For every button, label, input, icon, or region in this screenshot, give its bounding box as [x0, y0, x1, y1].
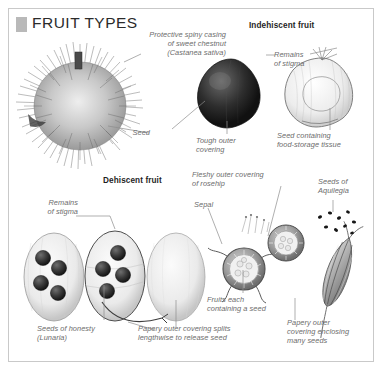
label-protective-spiny-casing: Protective spiny casing of sweet chestnu… [118, 30, 226, 58]
label-papery-outer-covering-enclosing: Papery outer covering enclosing many see… [287, 318, 359, 346]
fruit-types-plate: FRUIT TYPES [0, 0, 383, 371]
heading-dehiscent-fruit: Dehiscent fruit [103, 176, 162, 185]
label-seeds-of-honesty: Seeds of honesty (Lunaria) [37, 324, 111, 342]
label-remains-of-stigma-top: Remains of stigma [274, 50, 314, 68]
label-remains-of-stigma-bottom: Remains of stigma [28, 198, 78, 216]
label-sepal: Sepal [194, 200, 222, 209]
heading-indehiscent-fruit: Indehiscent fruit [249, 21, 314, 30]
label-seed: Seed [120, 128, 150, 137]
label-seeds-of-aquilegia: Seeds of Aquilegia [318, 177, 368, 195]
label-fruits-each-containing-a-seed: Fruits each containing a seed [207, 295, 271, 313]
label-seed-containing-food-storage-tissue: Seed containing food-storage tissue [277, 131, 363, 149]
label-papery-outer-covering-splits: Papery outer covering splits lengthwise … [138, 324, 250, 342]
label-fleshy-outer-covering-of-rosehip: Fleshy outer covering of rosehip [192, 170, 286, 188]
label-tough-outer-covering: Tough outer covering [196, 136, 252, 154]
